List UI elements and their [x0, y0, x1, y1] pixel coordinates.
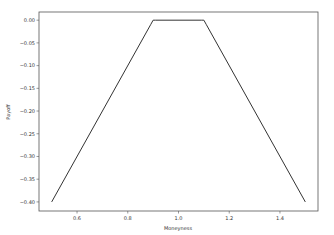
- x-tick-label: 1.4: [276, 215, 284, 221]
- payoff-chart: 0.60.81.01.21.4 0.00−0.05−0.10−0.15−0.20…: [0, 0, 334, 235]
- y-axis: 0.00−0.05−0.10−0.15−0.20−0.25−0.30−0.35−…: [20, 17, 39, 205]
- x-axis-label: Moneyness: [164, 225, 192, 232]
- x-tick-label: 1.2: [225, 215, 233, 221]
- y-tick-label: −0.05: [20, 40, 35, 46]
- x-tick-label: 0.6: [73, 215, 81, 221]
- plot-frame: [39, 12, 318, 211]
- y-tick-label: −0.30: [20, 153, 35, 159]
- y-tick-label: −0.10: [20, 62, 35, 68]
- y-tick-label: −0.40: [20, 199, 35, 205]
- series-group: [52, 20, 306, 202]
- payoff-line: [52, 20, 306, 202]
- x-tick-label: 1.0: [175, 215, 183, 221]
- y-axis-label: Payoff: [5, 104, 12, 120]
- y-tick-label: 0.00: [24, 17, 35, 23]
- x-tick-label: 0.8: [124, 215, 132, 221]
- y-tick-label: −0.15: [20, 85, 35, 91]
- x-axis: 0.60.81.01.21.4: [73, 211, 284, 221]
- y-tick-label: −0.35: [20, 176, 35, 182]
- y-tick-label: −0.25: [20, 131, 35, 137]
- y-tick-label: −0.20: [20, 108, 35, 114]
